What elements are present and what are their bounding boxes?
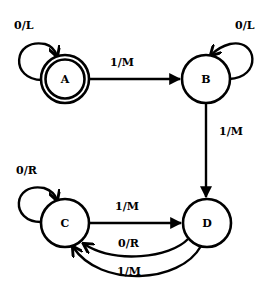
label-d-c-1: 1/M: [117, 265, 141, 278]
node-c: C: [41, 199, 89, 247]
state-diagram: A B C D 0/L 1/M 0/L 1/M 0/R 1/M 0/R 1/M: [0, 0, 269, 300]
label-b-b: 0/L: [235, 19, 255, 32]
node-b: B: [182, 55, 230, 103]
node-b-label: B: [201, 73, 210, 86]
label-b-d: 1/M: [219, 125, 243, 138]
label-c-d: 1/M: [115, 200, 139, 213]
label-d-c-0: 0/R: [118, 237, 140, 250]
node-d-label: D: [202, 217, 212, 230]
node-a: A: [41, 55, 89, 103]
label-a-b: 1/M: [110, 56, 134, 69]
label-c-c: 0/R: [16, 164, 38, 177]
node-d: D: [183, 199, 231, 247]
node-a-label: A: [60, 73, 70, 86]
node-c-label: C: [61, 217, 70, 230]
label-a-a: 0/L: [14, 19, 34, 32]
